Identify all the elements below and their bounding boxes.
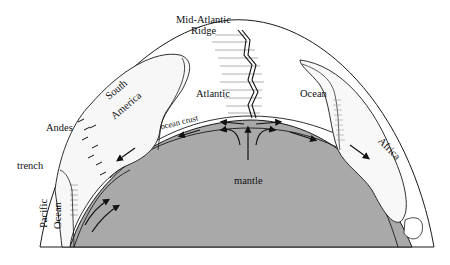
label-mid-atlantic: Mid-Atlantic — [176, 14, 231, 25]
label-trench: trench — [17, 160, 43, 171]
label-atlantic: Atlantic — [196, 88, 230, 99]
seafloor-spreading-diagram: Mid-Atlantic Ridge Atlantic Ocean South … — [0, 0, 450, 265]
label-ridge: Ridge — [191, 25, 216, 36]
label-pacific-ocean: Ocean — [52, 202, 63, 229]
label-andes: Andes — [46, 122, 73, 133]
label-ocean: Ocean — [300, 88, 327, 99]
label-pacific: Pacific — [38, 199, 49, 228]
label-mantle: mantle — [234, 175, 263, 186]
